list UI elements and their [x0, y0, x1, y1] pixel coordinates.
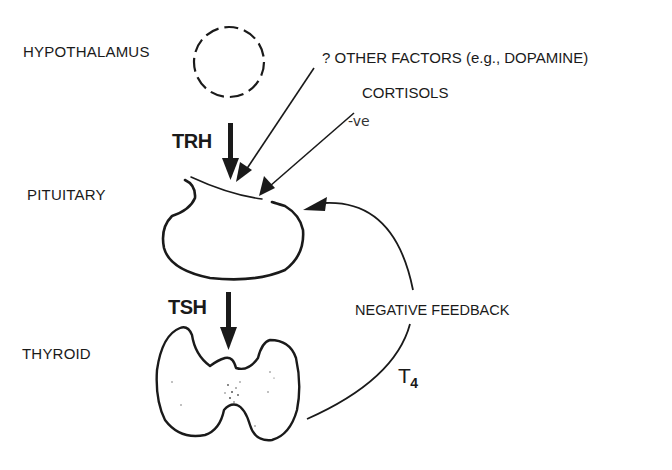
- pituitary-shape: [163, 177, 303, 279]
- other-factors-arrow: [236, 68, 314, 182]
- tsh-arrow: [220, 292, 237, 350]
- hypothalamus-shape: [194, 27, 264, 97]
- cortisols-effect-label: -ve: [348, 113, 370, 129]
- cortisols-arrow: [259, 113, 354, 196]
- trh-label: TRH: [172, 130, 212, 153]
- t4-subscript: 4: [410, 375, 417, 391]
- cortisols-label: CORTISOLS: [362, 84, 448, 101]
- pituitary-label: PITUITARY: [27, 186, 106, 203]
- other-factors-label: ? OTHER FACTORS (e.g., DOPAMINE): [322, 49, 588, 66]
- tsh-label: TSH: [168, 296, 207, 319]
- t4-label: T4: [398, 364, 418, 391]
- hypothalamus-label: HYPOTHALAMUS: [23, 43, 150, 60]
- trh-arrow: [222, 123, 239, 180]
- t4-base: T: [398, 364, 410, 387]
- thyroid-label: THYROID: [22, 345, 91, 362]
- diagram-canvas: [0, 0, 672, 470]
- negative-feedback-label: NEGATIVE FEEDBACK: [355, 302, 509, 318]
